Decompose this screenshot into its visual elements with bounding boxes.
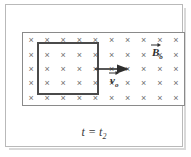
- conducting-loop: [37, 42, 99, 95]
- field-cell: ×: [136, 62, 152, 76]
- field-cell: ×: [120, 33, 136, 47]
- field-cell: ×: [136, 47, 152, 61]
- field-into-page-icon: ×: [141, 79, 146, 88]
- v-symbol-text: v: [110, 74, 115, 86]
- field-cell: ×: [168, 76, 184, 90]
- time-caption-text: t = t: [82, 125, 103, 139]
- field-cell: ×: [168, 47, 184, 61]
- field-into-page-icon: ×: [141, 64, 146, 73]
- field-cell: ×: [152, 76, 168, 90]
- velocity-label: v o: [110, 75, 118, 89]
- field-into-page-icon: ×: [109, 93, 114, 102]
- physics-figure: ××××××××××××××××××××××××××××××××××××××××…: [0, 0, 191, 157]
- field-into-page-icon: ×: [173, 36, 178, 45]
- v-subscript: o: [115, 81, 119, 89]
- field-into-page-icon: ×: [28, 93, 33, 102]
- field-into-page-icon: ×: [125, 79, 130, 88]
- field-into-page-icon: ×: [173, 50, 178, 59]
- vector-arrow-icon: [109, 70, 119, 75]
- field-into-page-icon: ×: [125, 93, 130, 102]
- field-cell: ×: [120, 47, 136, 61]
- field-into-page-icon: ×: [157, 93, 162, 102]
- field-cell: ×: [152, 62, 168, 76]
- b-symbol-text: B: [152, 46, 159, 58]
- b-subscript: o: [159, 53, 163, 61]
- v-vector-symbol: v: [110, 75, 115, 86]
- field-into-page-icon: ×: [28, 64, 33, 73]
- field-cell: ×: [104, 47, 120, 61]
- plate-shadow-bottom: [9, 148, 186, 150]
- field-cell: ×: [120, 76, 136, 90]
- field-cell: ×: [168, 91, 184, 105]
- field-cell: ×: [136, 33, 152, 47]
- field-cell: ×: [104, 91, 120, 105]
- field-into-page-icon: ×: [173, 93, 178, 102]
- field-into-page-icon: ×: [141, 93, 146, 102]
- field-into-page-icon: ×: [173, 64, 178, 73]
- field-cell: ×: [136, 76, 152, 90]
- field-cell: ×: [136, 91, 152, 105]
- field-into-page-icon: ×: [141, 36, 146, 45]
- field-into-page-icon: ×: [109, 36, 114, 45]
- field-cell: ×: [104, 33, 120, 47]
- field-cell: ×: [168, 62, 184, 76]
- field-into-page-icon: ×: [125, 36, 130, 45]
- field-cell: ×: [120, 91, 136, 105]
- field-cell: ×: [168, 33, 184, 47]
- field-into-page-icon: ×: [125, 50, 130, 59]
- time-caption: t = t2: [6, 125, 182, 141]
- b-vector-symbol: B: [152, 47, 159, 58]
- field-into-page-icon: ×: [141, 50, 146, 59]
- field-into-page-icon: ×: [28, 50, 33, 59]
- field-into-page-icon: ×: [109, 50, 114, 59]
- field-into-page-icon: ×: [157, 64, 162, 73]
- field-into-page-icon: ×: [28, 36, 33, 45]
- time-caption-subscript: 2: [102, 132, 106, 141]
- field-into-page-icon: ×: [28, 79, 33, 88]
- field-cell: ×: [152, 91, 168, 105]
- vector-arrow-icon: [151, 42, 161, 47]
- field-into-page-icon: ×: [173, 79, 178, 88]
- figure-plate-frame: ××××××××××××××××××××××××××××××××××××××××…: [5, 4, 183, 147]
- magnetic-field-label: B o: [152, 47, 163, 61]
- field-into-page-icon: ×: [157, 79, 162, 88]
